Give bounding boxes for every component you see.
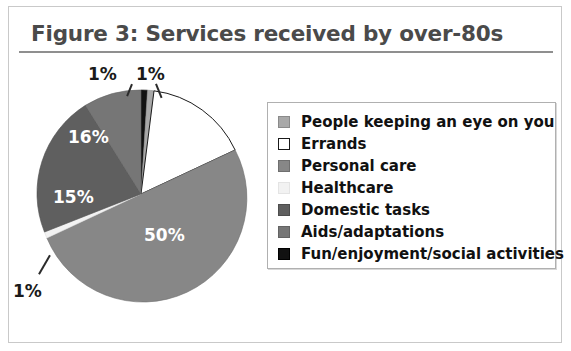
legend-swatch-icon (278, 248, 290, 260)
legend-item-list: People keeping an eye on you Errands Per… (278, 111, 551, 265)
legend-swatch-icon (278, 138, 290, 150)
pie-label-fun-social: 1% (88, 64, 117, 84)
legend-item-label: Healthcare (301, 181, 393, 196)
pie-label-people-keeping-eye: 1% (136, 64, 165, 84)
chart-legend: People keeping an eye on you Errands Per… (267, 102, 556, 269)
legend-item-label: Fun/enjoyment/social activities (301, 247, 564, 262)
legend-item-personal-care[interactable]: Personal care (278, 155, 551, 177)
pie-label-domestic-tasks: 16% (68, 127, 109, 147)
legend-item-label: Aids/adaptations (301, 225, 444, 240)
legend-swatch-icon (278, 160, 290, 172)
legend-item-domestic-tasks[interactable]: Domestic tasks (278, 199, 551, 221)
legend-item-label: People keeping an eye on you (301, 115, 555, 130)
pie-label-healthcare: 1% (13, 281, 42, 301)
pie-label-errands: 16% (154, 134, 195, 154)
pie-label-aids-adaptations: 15% (53, 187, 94, 207)
legend-item-fun-social[interactable]: Fun/enjoyment/social activities (278, 243, 551, 265)
legend-item-label: Errands (301, 137, 367, 152)
legend-swatch-icon (278, 182, 290, 194)
pie-label-personal-care: 50% (144, 225, 185, 245)
legend-swatch-icon (278, 226, 290, 238)
legend-item-aids-adaptations[interactable]: Aids/adaptations (278, 221, 551, 243)
legend-swatch-icon (278, 204, 290, 216)
legend-item-people-keeping-eye[interactable]: People keeping an eye on you (278, 111, 551, 133)
figure-title: Figure 3: Services received by over-80s (31, 21, 503, 46)
legend-swatch-icon (278, 116, 290, 128)
figure-frame: Figure 3: Services received by over-80s … (8, 6, 562, 343)
title-divider (19, 51, 553, 53)
legend-item-healthcare[interactable]: Healthcare (278, 177, 551, 199)
legend-item-errands[interactable]: Errands (278, 133, 551, 155)
legend-item-label: Personal care (301, 159, 417, 174)
legend-item-label: Domestic tasks (301, 203, 430, 218)
